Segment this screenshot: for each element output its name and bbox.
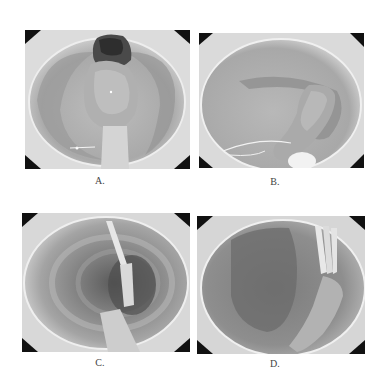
endoscopy-image-d-graphic xyxy=(197,216,365,354)
endoscopy-image-b xyxy=(199,33,364,168)
endoscopy-image-d xyxy=(197,216,365,354)
endoscopy-image-b-graphic xyxy=(199,33,364,168)
endoscopy-image-a-graphic xyxy=(25,30,190,169)
endoscopy-image-c xyxy=(22,213,190,352)
panel-label-b: B. xyxy=(255,176,295,187)
panel-label-d: D. xyxy=(255,358,295,369)
endoscopy-image-c-graphic xyxy=(22,213,190,352)
panel-label-c: C. xyxy=(80,357,120,368)
endoscopy-image-a xyxy=(25,30,190,169)
panel-label-a: A. xyxy=(80,175,120,186)
